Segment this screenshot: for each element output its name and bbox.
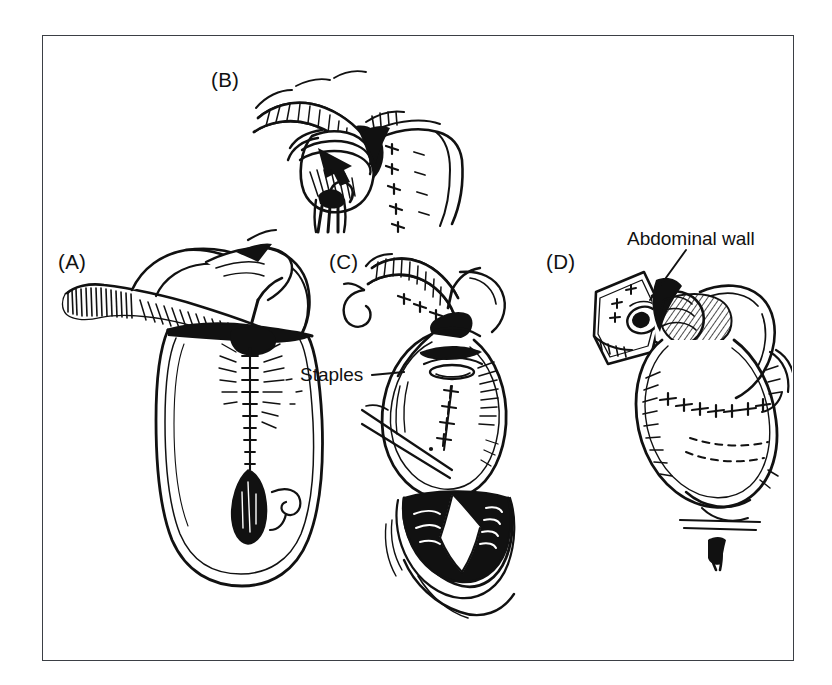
figure-root: (A) (B) (C) (D) Staples Abdominal wall — [0, 0, 832, 685]
figure-frame — [42, 35, 794, 661]
callout-label-abdominal-wall: Abdominal wall — [627, 228, 755, 250]
panel-label-a: (A) — [58, 250, 86, 274]
panel-label-c: (C) — [329, 250, 358, 274]
panel-label-b: (B) — [211, 68, 239, 92]
panel-label-d: (D) — [546, 250, 575, 274]
callout-label-staples: Staples — [300, 364, 363, 386]
